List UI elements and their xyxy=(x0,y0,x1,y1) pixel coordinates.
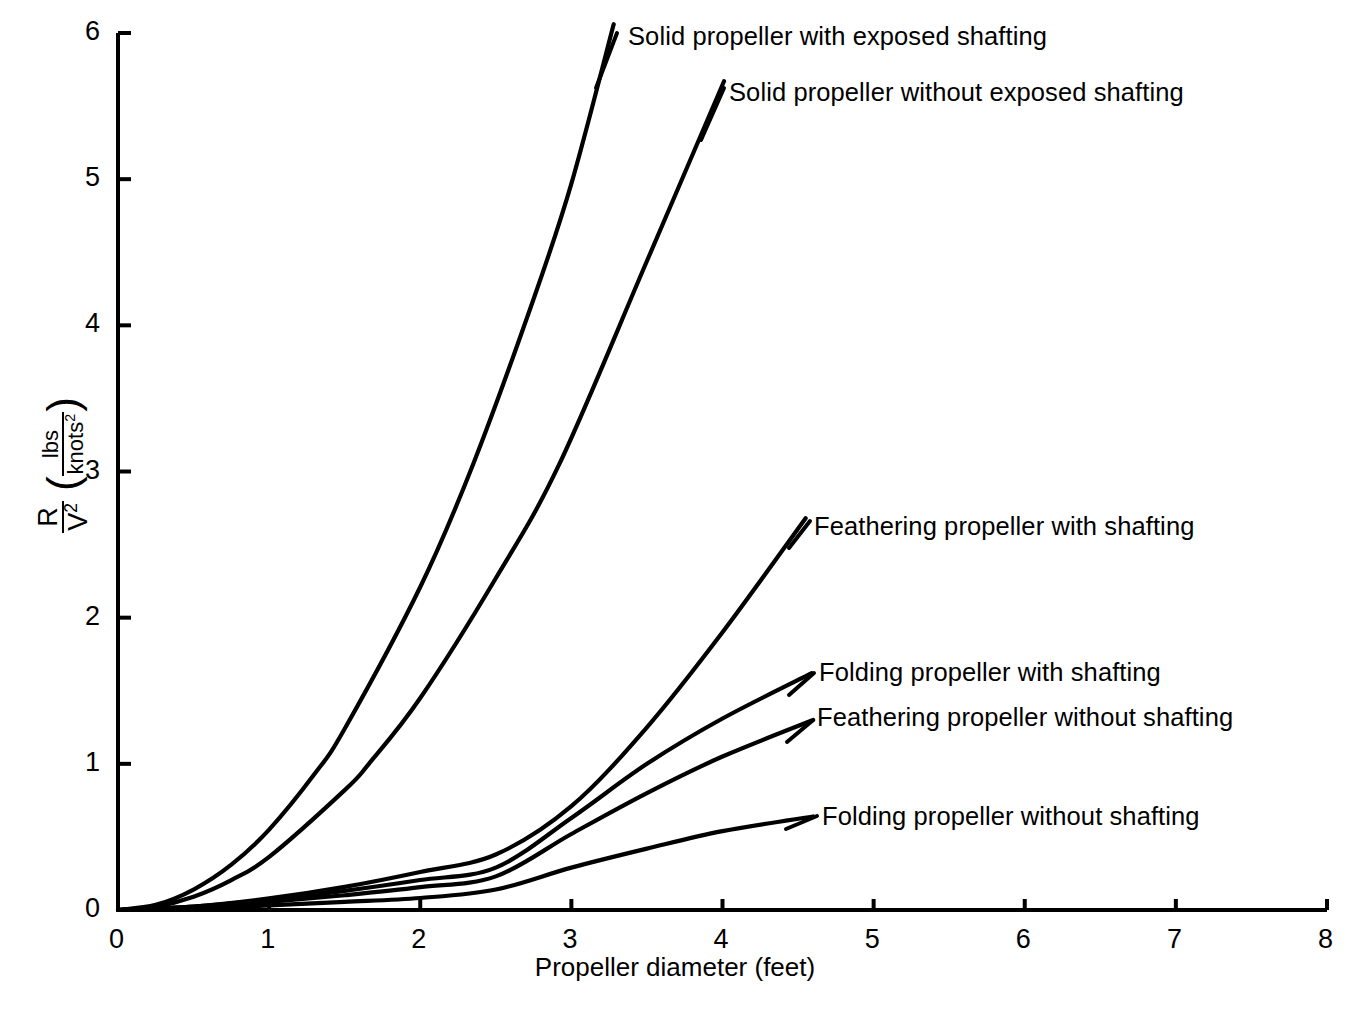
x-tick-label-2: 2 xyxy=(411,926,426,953)
y-tick-label-1: 1 xyxy=(85,749,100,776)
curve-5 xyxy=(118,720,813,910)
data-curves xyxy=(118,24,813,910)
y-tick-label-5: 5 xyxy=(85,164,100,191)
curve-label-3: Feathering propeller with shafting xyxy=(814,512,1194,541)
x-tick-label-6: 6 xyxy=(1016,926,1031,953)
y-axis-unit-denominator: knots2 xyxy=(64,412,87,477)
curve-2 xyxy=(118,81,724,910)
curve-3 xyxy=(118,518,806,910)
curve-4 xyxy=(118,673,812,910)
y-axis-ratio: R V2 xyxy=(34,501,93,533)
leader-line-1 xyxy=(596,33,617,88)
curve-1 xyxy=(118,24,614,910)
y-tick-label-6: 6 xyxy=(85,18,100,45)
x-tick-label-8: 8 xyxy=(1318,926,1333,953)
y-tick-label-2: 2 xyxy=(85,603,100,630)
x-tick-label-4: 4 xyxy=(714,926,729,953)
curve-label-1: Solid propeller with exposed shafting xyxy=(628,22,1047,51)
y-tick-label-4: 4 xyxy=(85,310,100,337)
curve-label-4: Folding propeller with shafting xyxy=(819,658,1161,687)
x-tick-label-3: 3 xyxy=(562,926,577,953)
y-axis-denominator: V2 xyxy=(64,501,92,533)
axis-ticks xyxy=(118,33,1327,910)
chart-plot-area xyxy=(0,0,1350,1021)
x-tick-label-5: 5 xyxy=(865,926,880,953)
curve-label-6: Folding propeller without shafting xyxy=(822,802,1200,831)
curve-label-5: Feathering propeller without shafting xyxy=(817,703,1233,732)
y-axis-unit-numerator: lbs xyxy=(39,412,64,477)
label-leader-lines xyxy=(596,33,817,829)
x-tick-label-0: 0 xyxy=(109,926,124,953)
chart-figure: 012345678 0123456 Solid propeller with e… xyxy=(0,0,1350,1021)
x-tick-label-1: 1 xyxy=(260,926,275,953)
y-axis-units: lbs knots2 xyxy=(39,412,87,477)
y-tick-label-0: 0 xyxy=(85,895,100,922)
x-tick-label-7: 7 xyxy=(1167,926,1182,953)
y-axis-numerator: R xyxy=(34,501,64,533)
y-axis-title: R V2 ( lbs knots2 ) xyxy=(0,340,138,580)
curve-label-2: Solid propeller without exposed shafting xyxy=(729,78,1184,107)
x-axis-title: Propeller diameter (feet) xyxy=(0,952,1350,983)
leader-line-2 xyxy=(701,88,724,140)
y-axis-open-paren: ( xyxy=(48,476,79,491)
axes xyxy=(118,33,1327,910)
y-axis-close-paren: ) xyxy=(48,397,79,412)
